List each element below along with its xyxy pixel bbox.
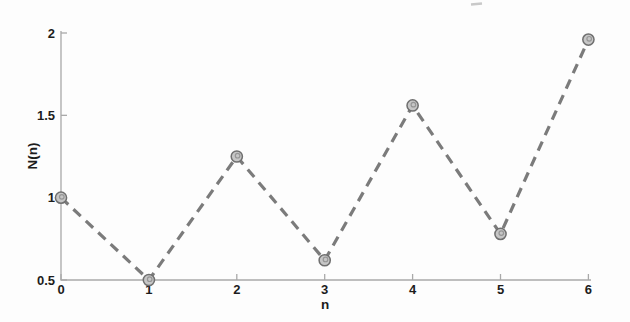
x-tick-label: 6 bbox=[585, 282, 592, 297]
data-line bbox=[61, 40, 588, 280]
x-tick-label: 3 bbox=[321, 282, 328, 297]
figure: N(n) n 0.511.520123456 bbox=[0, 0, 630, 322]
data-point-marker bbox=[143, 274, 154, 285]
y-tick-label: 1 bbox=[48, 190, 55, 205]
data-point-marker bbox=[407, 100, 418, 111]
y-tick-label: 1.5 bbox=[37, 108, 55, 123]
y-axis-label: N(n) bbox=[25, 143, 40, 170]
x-tick-label: 2 bbox=[233, 282, 240, 297]
x-tick-label: 5 bbox=[497, 282, 504, 297]
y-tick-label: 0.5 bbox=[37, 273, 55, 288]
data-point-marker bbox=[583, 34, 594, 45]
x-tick-label: 0 bbox=[57, 282, 64, 297]
data-point-marker bbox=[495, 228, 506, 239]
data-point-marker bbox=[231, 151, 242, 162]
scan-artifact-mark bbox=[471, 4, 482, 5]
data-point-marker bbox=[55, 192, 66, 203]
y-tick-label: 2 bbox=[48, 26, 55, 41]
axes-frame bbox=[61, 31, 591, 280]
x-axis-label: n bbox=[321, 297, 329, 312]
data-point-marker bbox=[319, 255, 330, 266]
chart-canvas: N(n) n 0.511.520123456 bbox=[0, 0, 630, 322]
x-tick-label: 4 bbox=[409, 282, 417, 297]
